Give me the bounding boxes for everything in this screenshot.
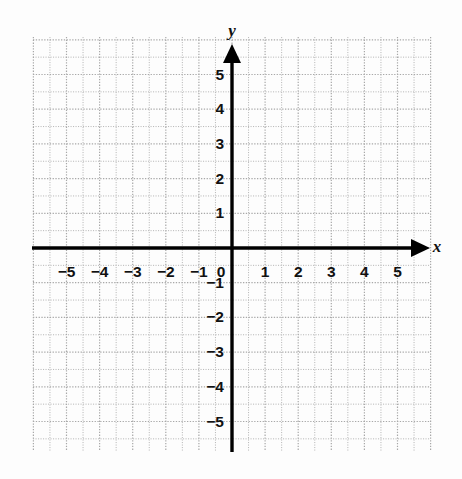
y-axis-arrowhead — [223, 44, 241, 63]
coordinate-grid-svg: −5−4−3−2−1012345 54321−1−2−3−4−5 x y — [0, 0, 462, 479]
x-axis-arrowhead — [411, 239, 430, 257]
y-tick-label: 3 — [215, 135, 224, 152]
x-tick-label: −2 — [157, 263, 175, 280]
x-axis-name-label: x — [432, 237, 442, 256]
y-tick-label: 4 — [215, 100, 224, 117]
x-tick-label: 3 — [327, 263, 336, 280]
y-tick-label: 5 — [215, 66, 224, 83]
y-tick-label: 1 — [215, 204, 224, 221]
y-tick-label: 2 — [215, 170, 224, 187]
y-tick-label: −2 — [206, 308, 224, 325]
y-axis-name-label: y — [226, 21, 236, 40]
y-tick-label: −4 — [206, 378, 224, 395]
x-tick-label: −4 — [91, 263, 109, 280]
y-tick-label: −3 — [206, 343, 224, 360]
x-tick-label: 1 — [261, 263, 270, 280]
x-tick-label: −3 — [124, 263, 142, 280]
coordinate-plane-figure: −5−4−3−2−1012345 54321−1−2−3−4−5 x y — [0, 0, 462, 479]
y-tick-label: −5 — [206, 413, 224, 430]
x-tick-label: 5 — [393, 263, 402, 280]
x-tick-label: 4 — [360, 263, 369, 280]
y-tick-label: −1 — [206, 274, 224, 291]
x-tick-label: 2 — [294, 263, 303, 280]
x-tick-label: −5 — [58, 263, 76, 280]
axes-group — [32, 44, 430, 452]
